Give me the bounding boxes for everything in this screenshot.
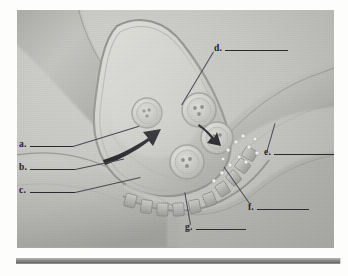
label-d: d.	[214, 44, 222, 54]
label-a: a.	[19, 140, 27, 150]
label-g-rule	[196, 229, 246, 230]
vesicle-2	[182, 93, 216, 127]
vesicle-3	[170, 145, 204, 179]
label-c: c.	[19, 186, 26, 196]
label-d-rule	[225, 50, 288, 51]
synapse-illustration	[17, 10, 334, 248]
label-a-rule	[30, 146, 73, 147]
label-b: b.	[19, 163, 27, 173]
figure-page: a. b. c. d. e. f. g.	[0, 0, 348, 276]
vesicle-1	[132, 98, 162, 128]
label-e-rule	[274, 154, 334, 155]
label-b-rule	[30, 169, 75, 170]
figure-plate	[17, 10, 334, 248]
label-f-rule	[257, 209, 309, 210]
label-c-rule	[30, 192, 75, 193]
label-g: g.	[185, 223, 193, 233]
bottom-rule-bar	[16, 258, 341, 264]
